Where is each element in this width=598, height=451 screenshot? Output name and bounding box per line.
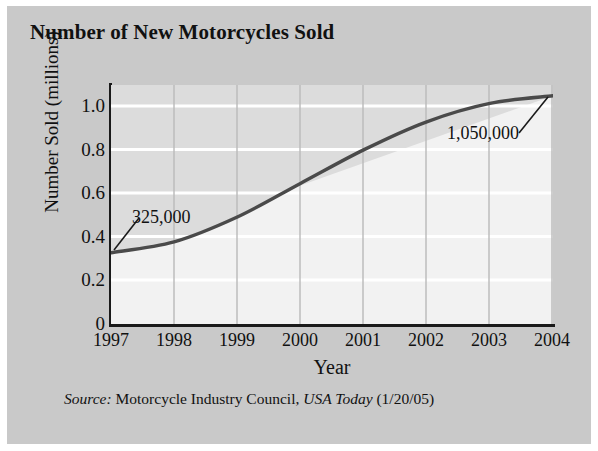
y-tick-label: 0.4 [61,226,105,248]
source-paper: USA Today [303,390,372,407]
x-tick-label: 2002 [396,330,456,351]
y-tick-label: 0.8 [61,139,105,161]
y-axis-tick-labels: 1.0 0.8 0.6 0.4 0.2 0 [53,6,105,451]
y-tick-label: 0.2 [61,269,105,291]
start-value-annotation: 325,000 [132,207,191,228]
x-tick-label: 2004 [522,330,582,351]
source-publisher: Motorcycle Industry Council, [116,390,300,407]
x-axis-tick-labels: 1997 1998 1999 2000 2001 2002 2003 2004 [111,330,553,356]
end-value-annotation: 1,050,000 [447,123,519,144]
chart-svg [111,85,553,324]
source-prefix: Source: [64,390,112,407]
x-tick-label: 2003 [459,330,519,351]
source-date: (1/20/05) [376,390,434,407]
x-tick-label: 1997 [81,330,141,351]
x-tick-label: 2001 [333,330,393,351]
y-tick-label: 1.0 [61,95,105,117]
x-tick-label: 2000 [270,330,330,351]
x-axis-title: Year [111,356,553,379]
x-tick-label: 1999 [207,330,267,351]
y-tick-label: 0.6 [61,182,105,204]
plot-background [111,85,553,324]
plot-area [111,85,553,324]
source-note: Source: Motorcycle Industry Council, USA… [64,390,434,408]
chart-page: Number of New Motorcycles Sold Number So… [0,0,598,451]
x-tick-label: 1998 [144,330,204,351]
chart-card: Number of New Motorcycles Sold Number So… [7,6,591,444]
x-axis-line [109,324,555,327]
